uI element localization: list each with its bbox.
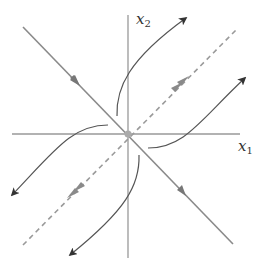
origin-equilibrium-point: [125, 131, 132, 138]
phase-portrait-svg: [0, 0, 264, 270]
phase-portrait: x2 x1: [0, 0, 264, 270]
trajectory-upper: [117, 18, 186, 116]
trajectory-right: [148, 78, 245, 148]
unstable-arrow-lower-2: [73, 182, 85, 192]
trajectory-left: [12, 125, 108, 195]
x2-axis-label: x2: [136, 12, 151, 29]
x1-axis-label: x1: [238, 139, 253, 156]
trajectory-bottom: [70, 155, 139, 255]
x1-label-sub: 1: [246, 145, 252, 156]
x2-label-sub: 2: [144, 18, 150, 29]
